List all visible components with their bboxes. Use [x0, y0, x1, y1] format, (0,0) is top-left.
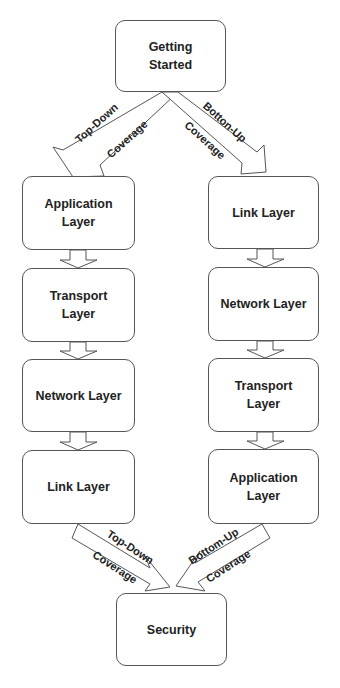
box-label: Transport Layer	[235, 377, 293, 413]
box-left-network-layer: Network Layer	[22, 359, 135, 432]
box-label: Application Layer	[229, 469, 297, 505]
arrow-right-2	[247, 341, 284, 358]
arrow-left-2	[60, 342, 97, 359]
connector-arrows	[0, 0, 340, 688]
box-label: Getting Started	[149, 38, 193, 74]
arrow-right-1	[247, 249, 284, 267]
box-label: Security	[147, 621, 196, 639]
box-right-application-layer: Application Layer	[208, 449, 319, 524]
arrow-left-1	[60, 250, 97, 268]
box-label: Application Layer	[44, 195, 112, 231]
box-label: Link Layer	[232, 204, 295, 222]
box-right-transport-layer: Transport Layer	[208, 358, 319, 432]
box-right-network-layer: Network Layer	[208, 267, 319, 341]
box-left-transport-layer: Transport Layer	[22, 268, 135, 342]
box-label: Transport Layer	[50, 287, 108, 323]
box-security: Security	[116, 593, 227, 666]
box-getting-started: Getting Started	[115, 20, 226, 92]
box-right-link-layer: Link Layer	[208, 176, 319, 249]
box-left-application-layer: Application Layer	[22, 176, 135, 250]
box-left-link-layer: Link Layer	[22, 450, 135, 524]
arrow-left-3	[60, 432, 97, 450]
box-label: Link Layer	[47, 478, 110, 496]
box-label: Network Layer	[35, 387, 121, 405]
arrow-right-3	[247, 432, 284, 449]
box-label: Network Layer	[220, 295, 306, 313]
